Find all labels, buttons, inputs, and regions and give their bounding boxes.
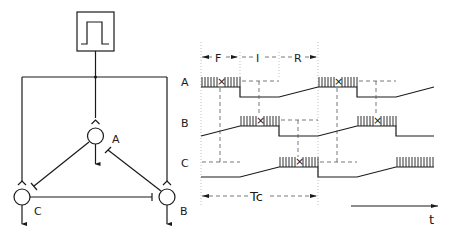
trace-b: × × bbox=[201, 114, 434, 136]
neuron-b-label: B bbox=[180, 205, 188, 218]
inhibitory-synapse-a-to-c bbox=[31, 142, 89, 190]
onset-links bbox=[220, 81, 376, 162]
neuron-a: A bbox=[88, 128, 121, 164]
neuron-c: C bbox=[14, 189, 42, 224]
row-label-a: A bbox=[181, 76, 189, 89]
neuron-c-label: C bbox=[34, 205, 42, 218]
excitatory-synapse-icon bbox=[163, 181, 171, 185]
row-label-c: C bbox=[181, 157, 189, 170]
time-axis: t bbox=[351, 206, 438, 227]
row-label-b: B bbox=[181, 117, 189, 130]
inhibitory-synapse-c-to-b bbox=[30, 193, 152, 201]
time-axis-label: t bbox=[429, 212, 434, 227]
figure-canvas: A C B A B bbox=[0, 0, 451, 234]
square-pulse-generator-icon bbox=[77, 12, 114, 51]
excitatory-synapse-icon bbox=[92, 120, 100, 124]
svg-text:×: × bbox=[256, 114, 265, 127]
trace-a: × × bbox=[201, 75, 434, 97]
phase-f-label: F bbox=[215, 52, 221, 65]
svg-text:×: × bbox=[334, 75, 343, 88]
period-tc: Tc bbox=[202, 189, 317, 204]
svg-text:×: × bbox=[373, 114, 382, 127]
neural-circuit: A C B bbox=[14, 12, 188, 224]
inhibitory-synapse-b-to-a bbox=[105, 147, 161, 191]
excitatory-synapse-icon bbox=[18, 181, 26, 185]
phase-r-label: R bbox=[294, 52, 302, 65]
neuron-a-label: A bbox=[112, 133, 120, 146]
svg-text:×: × bbox=[295, 155, 304, 168]
trace-c: × bbox=[201, 155, 434, 177]
phase-i-label: I bbox=[256, 52, 259, 65]
timing-diagram: A B C F I R × bbox=[181, 42, 438, 227]
svg-text:×: × bbox=[217, 75, 226, 88]
phase-labels: F I R bbox=[202, 52, 317, 65]
neuron-b: B bbox=[159, 189, 188, 224]
period-tc-label: Tc bbox=[249, 189, 263, 204]
